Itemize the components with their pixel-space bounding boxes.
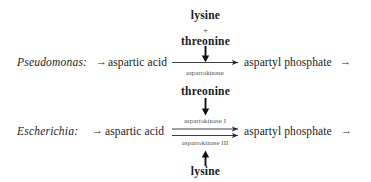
substrate-aspartic-acid-escherichia: aspartic acid bbox=[105, 126, 164, 138]
trailing-arrow-escherichia: → bbox=[341, 125, 352, 136]
reaction-arrows-escherichia bbox=[172, 129, 238, 136]
inhibitor-threonine-middle: threonine bbox=[181, 86, 230, 98]
inhibitor-lysine-top: lysine bbox=[191, 10, 220, 22]
enzyme-label-aspartokinase-iii: aspartokinase III bbox=[182, 140, 229, 147]
product-aspartyl-phosphate-escherichia: aspartyl phosphate bbox=[244, 126, 332, 138]
inhibitor-threonine-top: threonine bbox=[181, 36, 230, 48]
organism-label-escherichia: Escherichia: bbox=[17, 126, 78, 138]
substrate-aspartic-acid-pseudomonas: aspartic acid bbox=[108, 57, 167, 69]
lead-arrow-escherichia: → bbox=[92, 125, 103, 136]
inhibition-arrow-escherichia-bottom bbox=[202, 151, 209, 166]
inhibition-arrow-pseudomonas-top bbox=[202, 46, 209, 62]
inhibition-arrow-escherichia-top bbox=[202, 98, 209, 115]
enzyme-label-aspartokinase: aspartokinase bbox=[186, 70, 224, 77]
pathway-figure: lysine + threonine Pseudomonas: → aspart… bbox=[0, 0, 371, 182]
enzyme-label-aspartokinase-i: aspartokinase I bbox=[184, 118, 226, 125]
inhibitor-plus-sign: + bbox=[203, 26, 208, 35]
trailing-arrow-pseudomonas: → bbox=[340, 56, 351, 67]
inhibitor-lysine-bottom: lysine bbox=[191, 166, 220, 178]
organism-label-pseudomonas: Pseudomonas: bbox=[17, 57, 87, 69]
lead-arrow-pseudomonas: → bbox=[96, 56, 107, 67]
product-aspartyl-phosphate-pseudomonas: aspartyl phosphate bbox=[244, 57, 332, 69]
